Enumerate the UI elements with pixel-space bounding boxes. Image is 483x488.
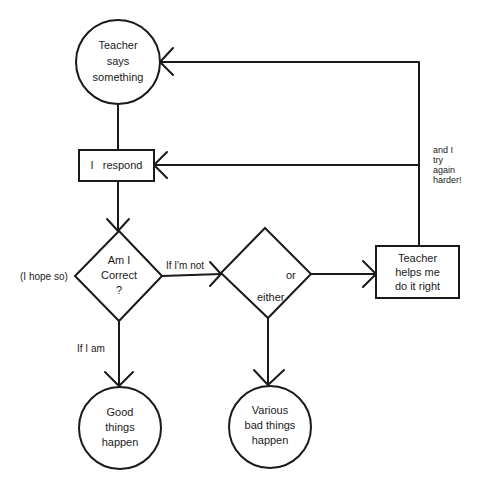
label-line: harder!	[433, 175, 462, 185]
label-line: again	[433, 165, 462, 175]
label-line: do it right	[376, 281, 459, 292]
edge-helps-to-teacher	[160, 62, 419, 246]
label-line: things	[80, 422, 160, 433]
node-either-or-diamond	[221, 228, 311, 318]
either-or-label-or: or	[286, 270, 296, 281]
label-line: says	[78, 56, 158, 67]
label-line: Various	[230, 405, 310, 416]
flowchart-canvas: Teacher says something I respond Am I Co…	[0, 0, 483, 488]
label-line: happen	[230, 435, 310, 446]
bad-things-label: Various bad things happen	[230, 405, 310, 446]
teacher-helps-label: Teacher helps me do it right	[376, 253, 459, 292]
label-line: Teacher	[78, 40, 158, 51]
label-line: Am I	[89, 255, 149, 266]
label-line: Correct	[89, 270, 149, 281]
label-line: happen	[80, 437, 160, 448]
label-line: try	[433, 155, 462, 165]
label-line: ?	[89, 285, 149, 296]
if-am-label: If I am	[77, 344, 105, 354]
if-not-label: If I'm not	[166, 261, 204, 271]
label-line: Good	[80, 407, 160, 418]
good-things-label: Good things happen	[80, 407, 160, 448]
try-again-label: and I try again harder!	[433, 145, 462, 185]
hope-so-label: (I hope so)	[20, 272, 68, 282]
label-line: Teacher	[376, 253, 459, 264]
label-line: helps me	[376, 267, 459, 278]
label-line: something	[78, 72, 158, 83]
am-i-correct-label: Am I Correct ?	[89, 255, 149, 296]
i-respond-label: I respond	[79, 160, 154, 171]
teacher-says-label: Teacher says something	[78, 40, 158, 83]
either-or-label-either: either	[257, 292, 285, 303]
label-line: and I	[433, 145, 462, 155]
edge-correct-to-either	[162, 274, 221, 276]
label-line: bad things	[230, 420, 310, 431]
